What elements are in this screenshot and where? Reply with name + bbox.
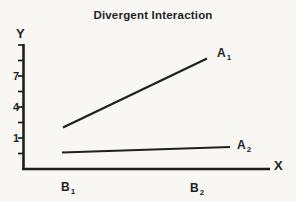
y-tick-label-1: 1 — [3, 131, 19, 145]
x-category-b2-sub: 2 — [200, 188, 204, 197]
x-category-b2-base: B — [190, 181, 199, 195]
series-label-a2: A2 — [237, 138, 251, 152]
y-tick-label-4: 4 — [3, 100, 19, 114]
x-category-b1-sub: 1 — [71, 187, 75, 196]
series-line-a2 — [62, 147, 230, 153]
x-category-b1-base: B — [61, 180, 70, 194]
chart-title: Divergent Interaction — [10, 9, 296, 21]
y-tick-label-7: 7 — [3, 69, 19, 83]
x-category-label-b1: B1 — [61, 180, 75, 194]
plot-canvas — [0, 0, 296, 202]
series-label-a2-sub: 2 — [247, 145, 251, 154]
x-axis-label: X — [274, 158, 283, 173]
figure-divergent-interaction: Divergent Interaction Y X 7 4 1 A1 A2 B1… — [0, 0, 296, 202]
series-line-a1 — [63, 59, 207, 128]
series-label-a1-base: A — [217, 46, 226, 60]
x-category-label-b2: B2 — [190, 181, 204, 195]
y-axis-label: Y — [16, 26, 25, 41]
series-label-a1: A1 — [217, 46, 231, 60]
series-label-a1-sub: 1 — [227, 53, 231, 62]
series-label-a2-base: A — [237, 138, 246, 152]
